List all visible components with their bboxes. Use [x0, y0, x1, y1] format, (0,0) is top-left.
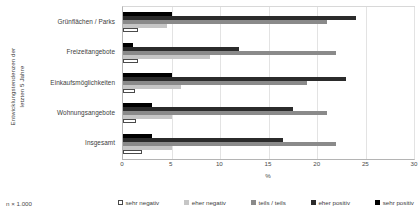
legend-swatch-icon-eher-negativ	[184, 200, 189, 205]
bar-einkaufsm-glichkeiten-sehr-negativ[interactable]	[123, 89, 135, 93]
legend-item-sehr-positiv[interactable]: sehr positiv	[375, 199, 414, 206]
bar-group-freizeitangebote	[123, 37, 414, 67]
bar-row	[123, 119, 414, 123]
legend-swatch-icon-eher-positiv	[311, 200, 316, 205]
x-tick-label-15: 15	[265, 160, 272, 167]
x-tick-label-0: 0	[120, 160, 123, 167]
x-tick-label-20: 20	[313, 160, 320, 167]
legend-item-sehr-negativ[interactable]: sehr negativ	[118, 199, 159, 206]
category-label-gr-nfl-chen-parks: Grünflächen / Parks	[18, 6, 118, 36]
bar-freizeitangebote-sehr-negativ[interactable]	[123, 59, 138, 63]
x-tick-label-10: 10	[216, 160, 223, 167]
category-label-freizeitangebote: Freizeitangebote	[18, 36, 118, 66]
category-label-einkaufsm-glichkeiten: Einkaufsmöglichkeiten	[18, 67, 118, 97]
legend-label: eher negativ	[192, 199, 226, 206]
legend-swatch-icon-teils-teils	[251, 200, 256, 205]
bar-row	[123, 28, 414, 32]
x-axis-ticks: 051015202530	[122, 160, 414, 170]
category-label-wohnungsangebote: Wohnungsangebote	[18, 97, 118, 127]
legend: sehr negativeher negativteils / teilsehe…	[118, 199, 414, 206]
bar-groups	[123, 7, 414, 159]
bar-group-gr-nfl-chen-parks	[123, 7, 414, 37]
x-axis-label: %	[122, 172, 414, 179]
gridline-30	[414, 7, 415, 159]
bar-insgesamt-sehr-negativ[interactable]	[123, 150, 142, 154]
legend-item-teils-teils[interactable]: teils / teils	[251, 199, 286, 206]
category-label-insgesamt: Insgesamt	[18, 128, 118, 158]
legend-swatch-icon-sehr-positiv	[375, 200, 380, 205]
bar-group-einkaufsm-glichkeiten	[123, 68, 414, 98]
bar-gr-nfl-chen-parks-sehr-negativ[interactable]	[123, 28, 138, 32]
x-tick-label-30: 30	[411, 160, 418, 167]
bar-wohnungsangebote-sehr-negativ[interactable]	[123, 119, 136, 123]
legend-label: teils / teils	[259, 199, 286, 206]
bar-group-wohnungsangebote	[123, 98, 414, 128]
sample-size-note: n × 1.000	[6, 200, 32, 207]
bar-row	[123, 89, 414, 93]
legend-label: sehr positiv	[383, 199, 414, 206]
legend-item-eher-positiv[interactable]: eher positiv	[311, 199, 350, 206]
x-tick-label-25: 25	[362, 160, 369, 167]
bar-row	[123, 59, 414, 63]
bar-chart: Entwicklungstendenzen der letzten 5 Jahr…	[0, 0, 419, 222]
category-axis-labels: Grünflächen / ParksFreizeitangeboteEinka…	[18, 6, 118, 158]
x-tick-label-5: 5	[169, 160, 172, 167]
legend-label: eher positiv	[318, 199, 350, 206]
legend-item-eher-negativ[interactable]: eher negativ	[184, 199, 226, 206]
plot-area	[122, 6, 415, 160]
bar-row	[123, 150, 414, 154]
legend-label: sehr negativ	[126, 199, 160, 206]
bar-group-insgesamt	[123, 129, 414, 159]
legend-swatch-icon-sehr-negativ	[118, 200, 123, 205]
